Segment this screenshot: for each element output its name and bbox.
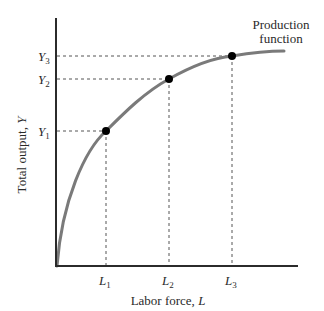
point-1: [102, 127, 110, 135]
point-3: [228, 52, 236, 60]
y2-label: Y2: [38, 72, 50, 89]
x-axis-title: Labor force, L: [131, 293, 206, 308]
production-function-diagram: Y3 Y2 Y1 L1 L2 L3 Labor force, L Total o…: [0, 0, 324, 311]
curve-label-line1: Production: [252, 17, 310, 32]
l3-label: L3: [224, 273, 237, 290]
y3-label: Y3: [38, 49, 50, 66]
l1-label: L1: [98, 273, 111, 290]
production-curve: [57, 51, 284, 266]
point-2: [165, 75, 173, 83]
y-axis-title: Total output, Y: [14, 115, 29, 194]
curve-label-line2: function: [259, 31, 303, 46]
y1-label: Y1: [38, 124, 50, 141]
l2-label: L2: [161, 273, 174, 290]
